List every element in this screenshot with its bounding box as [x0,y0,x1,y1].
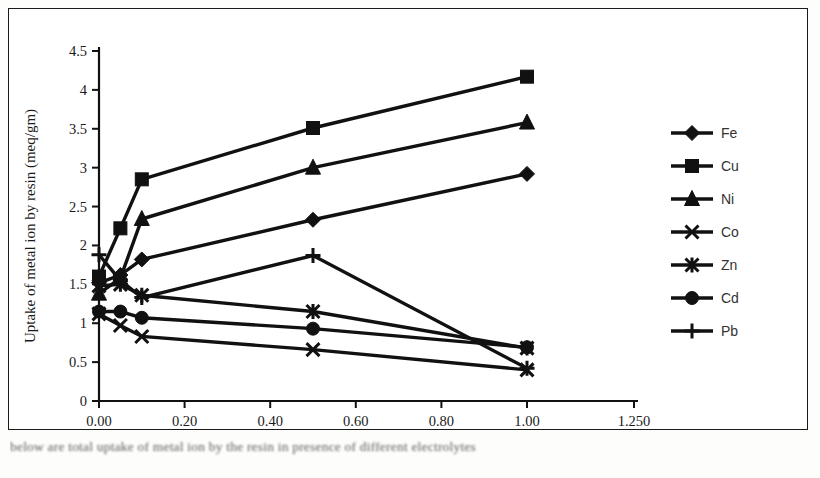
square-marker-icon [686,160,699,173]
cross-marker-icon [114,319,127,332]
figure-caption-text: below are total uptake of metal ion by t… [10,436,806,455]
chart-plot-area: 00.511.522.533.544.50.000.200.400.600.80… [9,9,809,431]
figure-page: 00.511.522.533.544.50.000.200.400.600.80… [0,0,820,478]
series-group [92,70,535,376]
legend-label: Co [721,224,739,240]
legend-label: Zn [721,257,737,273]
legend-label: Ni [721,191,734,207]
y-axis-tick-label: 2 [80,237,87,253]
legend-item[interactable]: Fe [671,125,738,141]
y-axis-tick-label: 3.5 [69,121,87,137]
legend-item[interactable]: Zn [671,257,737,273]
circle-marker-icon [93,305,106,318]
diamond-marker-icon [306,212,321,227]
circle-marker-icon [135,311,148,324]
legend-item[interactable]: Ni [671,191,734,208]
series-line [99,123,527,294]
x-axis-tick-label: 0.00 [86,413,111,429]
plus-marker-icon [306,248,321,263]
x-axis-tick-label: 0.80 [429,413,454,429]
data-series [92,166,535,290]
square-marker-icon [114,222,127,235]
legend-item[interactable]: Cu [671,158,739,174]
legend-item[interactable]: Cd [671,290,739,306]
y-axis-tick-label: 2.5 [69,199,87,215]
square-marker-icon [135,173,148,186]
diamond-marker-icon [520,166,535,181]
y-axis-title: Uptake of metal ion by resin (meq/gm) [22,109,39,343]
circle-marker-icon [307,322,320,335]
circle-marker-icon [686,292,699,305]
legend-item[interactable]: Pb [671,323,738,339]
square-marker-icon [307,122,320,135]
y-axis-tick-label: 3 [80,160,87,176]
y-axis-tick-label: 4 [80,82,88,98]
x-axis-tick-label: 1.00 [514,413,539,429]
legend-label: Cd [721,290,739,306]
figure-caption: below are total uptake of metal ion by t… [10,436,806,472]
legend-item[interactable]: Co [671,224,739,240]
line-chart-svg: 00.511.522.533.544.50.000.200.400.600.80… [9,9,809,431]
y-axis-tick-label: 0.5 [69,354,87,370]
figure-frame: 00.511.522.533.544.50.000.200.400.600.80… [8,8,808,430]
circle-marker-icon [114,305,127,318]
data-series [92,114,535,300]
series-line [99,174,527,283]
plus-marker-icon [685,324,700,339]
y-axis-tick-label: 1.5 [69,276,87,292]
legend-label: Cu [721,158,739,174]
legend-label: Fe [721,125,738,141]
y-axis-tick-label: 1 [80,315,87,331]
chart-legend: FeCuNiCoZnCdPb [671,125,739,339]
diamond-marker-icon [685,126,700,141]
x-axis-tick-label: 1.250 [618,413,651,429]
circle-marker-icon [521,341,534,354]
series-line [99,77,527,277]
legend-label: Pb [721,323,738,339]
y-axis-tick-label: 0 [80,393,87,409]
x-axis-tick-label: 0.40 [258,413,283,429]
triangle-marker-icon [520,114,535,129]
square-marker-icon [521,70,534,83]
y-axis-tick-label: 4.5 [69,43,87,59]
x-axis-tick-label: 0.60 [343,413,368,429]
x-axis-tick-label: 0.20 [172,413,197,429]
